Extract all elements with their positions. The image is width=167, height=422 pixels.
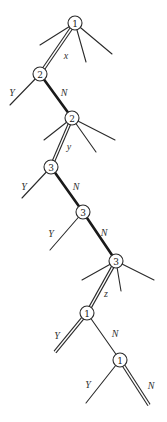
node-label: 2 xyxy=(69,114,75,124)
edge-label: x xyxy=(63,50,69,61)
tree-node: 1 xyxy=(68,16,82,30)
edge-label: N xyxy=(72,181,81,192)
edge-label: y xyxy=(66,141,72,152)
node-label: 1 xyxy=(72,19,78,29)
node-label: 3 xyxy=(48,163,54,173)
node-label: 1 xyxy=(117,356,123,366)
edge-label: N xyxy=(147,380,156,391)
edge-label: N xyxy=(100,227,109,238)
tree-node: 2 xyxy=(65,111,79,125)
tree-node: 1 xyxy=(113,353,127,367)
tree-node: 2 xyxy=(33,67,47,81)
edge-label: Y xyxy=(9,87,16,98)
node-label: 1 xyxy=(84,309,90,319)
edge-label: Y xyxy=(85,379,92,390)
double-edge-inner xyxy=(40,23,75,74)
node-label: 2 xyxy=(37,70,43,80)
edge-label: Y xyxy=(54,330,61,341)
edge-labels-layer: xYNyYNYNzYNYN xyxy=(9,50,155,391)
tree-edge-double xyxy=(120,360,149,405)
tree-edge-double xyxy=(55,313,87,352)
tree-node: 3 xyxy=(44,160,58,174)
tree-edge-thin xyxy=(86,360,120,403)
search-tree-diagram: 12233311 xYNyYNYNzYNYN xyxy=(0,0,167,422)
tree-edge-double xyxy=(40,23,75,74)
edge-label: Y xyxy=(21,181,28,192)
bold-edge xyxy=(83,212,116,261)
node-label: 3 xyxy=(80,208,86,218)
edge-label: N xyxy=(111,328,120,339)
tree-edge-bold xyxy=(83,212,116,261)
node-label: 3 xyxy=(113,257,119,267)
edge-label: Y xyxy=(48,228,55,239)
edge-label: z xyxy=(103,288,108,299)
double-edge-inner xyxy=(120,360,149,405)
tree-node: 3 xyxy=(109,254,123,268)
nodes-layer: 12233311 xyxy=(33,16,127,367)
tree-node: 3 xyxy=(76,205,90,219)
tree-canvas: 12233311 xYNyYNYNzYNYN xyxy=(0,0,167,422)
edge-label: N xyxy=(60,87,69,98)
tree-node: 1 xyxy=(80,306,94,320)
thin-edge xyxy=(86,360,120,403)
double-edge-inner xyxy=(55,313,87,352)
